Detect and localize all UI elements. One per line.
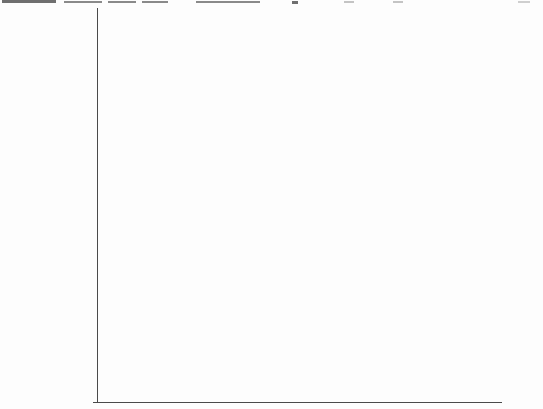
bar-chart	[0, 0, 543, 409]
cropped-text-mark	[518, 1, 530, 3]
chart-rows	[0, 8, 543, 403]
cropped-text-mark	[142, 1, 168, 3]
cropped-text-mark	[292, 1, 298, 4]
cropped-text-mark	[196, 1, 260, 3]
cropped-text-mark	[344, 1, 354, 3]
cropped-text-mark	[64, 1, 102, 3]
cropped-text-mark	[393, 1, 403, 3]
cropped-text-mark	[2, 0, 56, 3]
cropped-caption-fragment	[0, 0, 543, 5]
cropped-text-mark	[108, 1, 136, 3]
